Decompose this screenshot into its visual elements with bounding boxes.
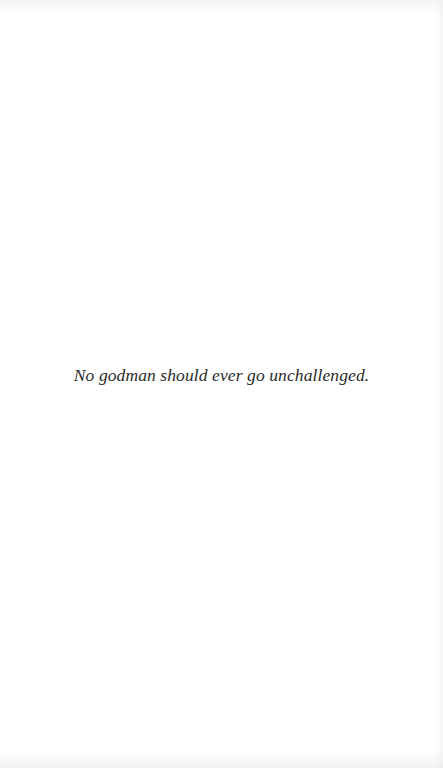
epigraph-text: No godman should ever go unchallenged. — [0, 364, 443, 386]
book-page: No godman should ever go unchallenged. — [0, 0, 443, 768]
page-bleed-through-top — [0, 0, 443, 14]
page-bleed-through-bottom — [0, 752, 443, 768]
